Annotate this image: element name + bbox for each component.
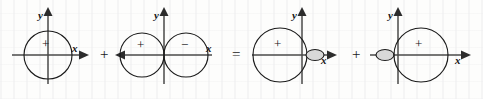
sign-plus-panel4: +	[415, 36, 422, 51]
x-axis-label-panel3: x	[320, 54, 327, 66]
panel-cardioid-right: + x y	[247, 0, 351, 99]
lobe-ellipse-small-left	[376, 50, 394, 61]
sign-plus-panel1: +	[42, 36, 49, 51]
sign-plus-panel3: +	[274, 36, 281, 51]
y-axis-label-panel3: y	[290, 9, 297, 21]
plus-operator-1: +	[100, 47, 108, 62]
y-axis-label-panel4: y	[386, 9, 393, 21]
sign-minus-panel2: −	[181, 37, 188, 52]
figure-root: + x y + + − x y	[0, 0, 483, 99]
y-axis-label-panel1: y	[36, 9, 43, 21]
panel-dipole: + − x y	[112, 0, 230, 99]
plus-operator-2: +	[352, 47, 360, 62]
equals-operator: =	[232, 47, 240, 62]
y-axis-label-panel2: y	[152, 9, 159, 21]
y-axis-panel2	[160, 7, 169, 84]
x-axis-label-panel2: x	[205, 42, 212, 54]
sign-plus-panel2: +	[137, 37, 144, 52]
panel-cardioid-left: + x y	[366, 0, 483, 99]
x-axis-label-panel4: x	[454, 54, 461, 66]
x-axis-label-panel1: x	[71, 42, 78, 54]
panel-omnidirectional: + x y	[0, 0, 105, 99]
